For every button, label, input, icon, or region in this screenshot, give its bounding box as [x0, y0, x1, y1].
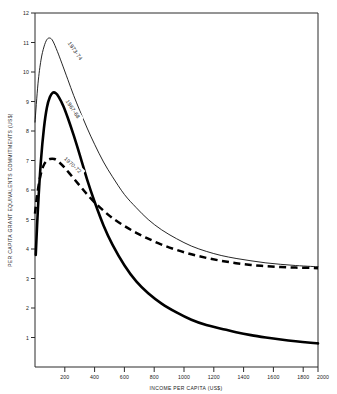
x-tick-label-200: 200 — [60, 374, 69, 380]
y-tick-label-7: 7 — [26, 158, 29, 164]
chart-figure: 12 11 10 9 8 7 6 5 4 3 2 1 — [0, 0, 337, 394]
y-tick-label-1: 1 — [26, 335, 29, 341]
y-tick-label-11: 11 — [23, 40, 29, 46]
x-tick-label-800: 800 — [150, 374, 159, 380]
y-tick-label-12: 12 — [23, 10, 29, 16]
y-tick-label-10: 10 — [23, 69, 29, 75]
y-tick-label-8: 8 — [26, 128, 29, 134]
chart-svg: 12 11 10 9 8 7 6 5 4 3 2 1 — [0, 0, 337, 394]
y-tick-label-2: 2 — [26, 305, 29, 311]
y-tick-label-3: 3 — [26, 276, 29, 282]
x-tick-label-1200: 1200 — [208, 374, 220, 380]
x-tick-label-1400: 1400 — [238, 374, 250, 380]
y-tick-label-5: 5 — [26, 217, 29, 223]
x-tick-label-2000: 2000 — [317, 374, 329, 380]
x-tick-label-1600: 1600 — [267, 374, 279, 380]
y-tick-label-6: 6 — [26, 187, 29, 193]
chart-background — [0, 0, 337, 394]
x-tick-label-400: 400 — [90, 374, 99, 380]
x-tick-label-1000: 1000 — [178, 374, 190, 380]
y-tick-label-9: 9 — [26, 99, 29, 105]
x-axis-title: INCOME PER CAPITA (US$) — [150, 385, 223, 391]
y-axis-title: PER CAPITA GRANT EQUIVALENTS COMMITMENTS… — [7, 113, 13, 267]
x-tick-label-600: 600 — [120, 374, 129, 380]
x-tick-label-1800: 1800 — [297, 374, 309, 380]
y-tick-label-4: 4 — [26, 246, 29, 252]
